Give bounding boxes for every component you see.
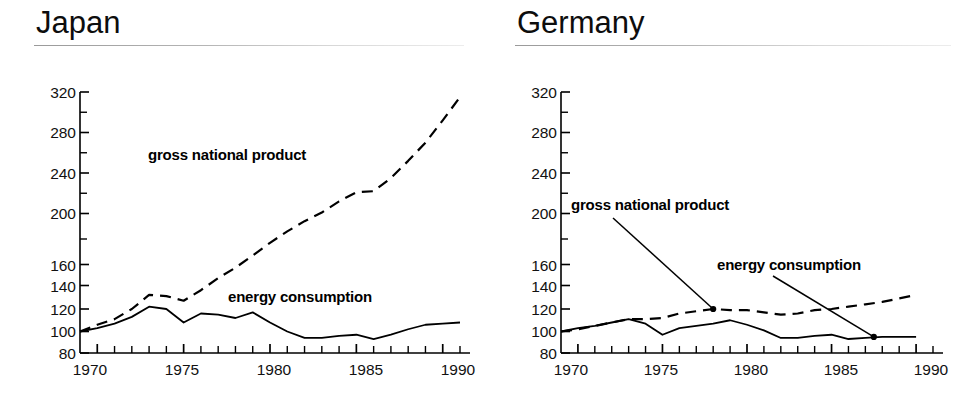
chart-panel-japan: Japan 320 280 240 200 160 140 120 100 80… bbox=[0, 0, 483, 404]
annotation-leader-line bbox=[773, 276, 874, 337]
series-line-energy bbox=[561, 319, 916, 339]
plot-area-japan bbox=[0, 0, 483, 404]
chart-panel-germany: Germany 320 280 240 200 160 140 120 100 … bbox=[483, 0, 966, 404]
series-line-gnp bbox=[561, 295, 916, 332]
annotation-marker-dot bbox=[710, 306, 716, 312]
figure-root: Japan 320 280 240 200 160 140 120 100 80… bbox=[0, 0, 966, 404]
series-line-gnp bbox=[80, 97, 460, 331]
series-line-energy bbox=[80, 307, 460, 339]
plot-area-germany bbox=[483, 0, 966, 404]
annotation-marker-dot bbox=[871, 334, 877, 340]
annotation-leader-line bbox=[613, 218, 713, 309]
